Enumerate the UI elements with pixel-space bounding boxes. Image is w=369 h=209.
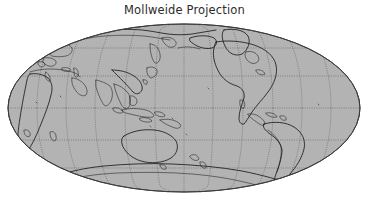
map-axes xyxy=(0,0,369,209)
figure-canvas: Mollweide Projection xyxy=(0,0,369,209)
